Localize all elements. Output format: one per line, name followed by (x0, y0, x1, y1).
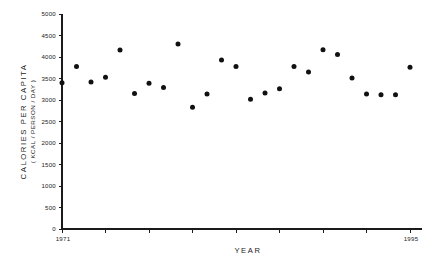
data-point (190, 105, 195, 110)
data-point (234, 64, 239, 69)
data-point (393, 92, 398, 97)
data-point (74, 64, 79, 69)
y-axis-title-units: ( KCAL / PERSON / DAY ) (29, 80, 36, 164)
data-point (147, 81, 152, 86)
data-point (306, 70, 311, 75)
x-axis-tick-label-end: 1995 (404, 235, 419, 242)
y-axis-tick-label: 2000 (41, 139, 56, 146)
y-axis-tick-label: 5000 (41, 10, 56, 17)
data-point (408, 65, 413, 70)
data-point (161, 85, 166, 90)
data-point (263, 91, 268, 96)
data-point (248, 97, 253, 102)
y-axis-tick-label: 2500 (41, 118, 56, 125)
y-axis-tick-label: 3500 (41, 75, 56, 82)
data-point (103, 75, 108, 80)
y-axis-tick-label: 1000 (41, 182, 56, 189)
data-point (364, 91, 369, 96)
x-axis-title: YEAR (234, 246, 261, 254)
y-axis-tick-label: 3000 (41, 96, 56, 103)
y-axis-tick-label: 0 (52, 225, 56, 232)
data-point (277, 86, 282, 91)
data-point (89, 79, 94, 84)
y-axis-tick-label: 1500 (41, 161, 56, 168)
y-axis-tick-label: 4500 (41, 32, 56, 39)
data-point (118, 48, 123, 53)
data-point (321, 47, 326, 52)
data-point (219, 58, 224, 63)
data-point (176, 42, 181, 47)
data-point (350, 76, 355, 81)
y-axis-title: CALORIES PER CAPITA (19, 64, 28, 180)
data-point (335, 52, 340, 57)
data-point (60, 80, 65, 85)
y-axis-tick-label: 500 (45, 204, 56, 211)
data-point (132, 91, 137, 96)
x-axis-tick-label-start: 1971 (56, 235, 71, 242)
data-point-group (60, 42, 413, 110)
data-point (205, 91, 210, 96)
calories-per-capita-scatter-chart: 0500100015002000250030003500400045005000… (0, 0, 433, 254)
y-axis-tick-label: 4000 (41, 53, 56, 60)
data-point (379, 92, 384, 97)
data-point (292, 64, 297, 69)
